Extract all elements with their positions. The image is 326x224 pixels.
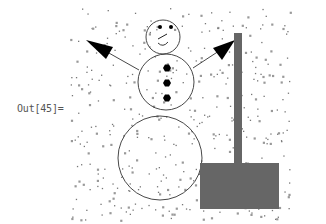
mouth-icon [158, 42, 168, 45]
snowman-bottom [118, 116, 202, 200]
button-hexagon-2 [163, 80, 171, 87]
left-arrowhead-icon [86, 40, 113, 59]
button-hexagon-3 [163, 95, 171, 102]
right-eye-icon [169, 25, 173, 29]
signpost-box [200, 163, 279, 209]
signpost-pole [234, 33, 242, 164]
right-arrowhead-icon [213, 40, 235, 60]
nose-icon [158, 34, 167, 39]
snowman-head [146, 20, 180, 54]
snowman-graphic[interactable] [0, 0, 326, 224]
left-eye-icon [158, 25, 162, 29]
